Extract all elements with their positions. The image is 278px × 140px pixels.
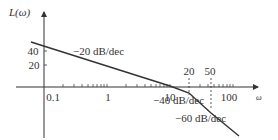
- corner-label-20: 20: [184, 65, 196, 77]
- bode-plot: L(ω) ω 40 20 0.1 1 10 100 20 50 −20 dB/d…: [0, 0, 278, 140]
- x-axis-label: ω: [256, 93, 262, 102]
- corner-label-50: 50: [205, 65, 217, 77]
- x-tick-label-100: 100: [221, 91, 238, 103]
- y-tick-label-40: 40: [28, 45, 40, 57]
- slope-label-minus20: −20 dB/dec: [73, 45, 124, 57]
- y-tick-label-20: 20: [29, 59, 41, 71]
- y-axis-label: L(ω): [8, 6, 31, 19]
- slope-label-minus40: −40 dB/dec: [153, 94, 204, 106]
- x-tick-label-0.1: 0.1: [46, 91, 60, 103]
- slope-label-minus60: −60 dB/dec: [175, 112, 226, 124]
- x-tick-label-1: 1: [105, 91, 111, 103]
